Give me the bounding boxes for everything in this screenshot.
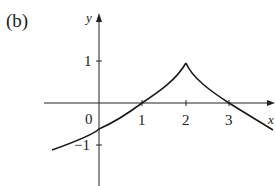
graph: (b) y x 0 1 2 3 1 −1 xyxy=(0,0,275,186)
x-axis-label: x xyxy=(267,112,274,127)
x-tick-label-2: 2 xyxy=(182,112,190,128)
x-axis-arrow xyxy=(267,100,275,106)
curve-left xyxy=(52,63,186,150)
y-tick-label-neg1: −1 xyxy=(74,137,90,153)
x-tick-label-1: 1 xyxy=(138,112,146,128)
y-axis-arrow xyxy=(96,13,102,22)
x-tick-label-3: 3 xyxy=(225,112,233,128)
y-axis-label: y xyxy=(84,10,92,25)
origin-label: 0 xyxy=(85,111,93,127)
y-tick-label-1: 1 xyxy=(84,53,92,69)
panel-label: (b) xyxy=(6,10,28,32)
